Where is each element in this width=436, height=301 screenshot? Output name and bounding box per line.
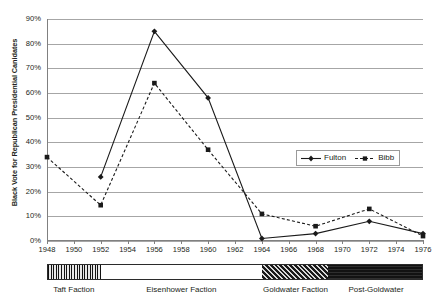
faction-segment [262, 265, 329, 279]
faction-label: Eisenhower Faction [146, 284, 216, 295]
y-axis-tick-label: 20% [11, 188, 41, 196]
chart-legend: Fulton Bibb [296, 150, 400, 166]
faction-timeline-labels: Taft FactionEisenhower FactionGoldwater … [47, 284, 423, 298]
legend-item-bibb: Bibb [355, 153, 394, 163]
faction-timeline-bar [47, 264, 423, 280]
data-point-fulton [259, 236, 265, 242]
y-axis-tick-label: 60% [11, 89, 41, 97]
faction-label: Taft Faction [53, 284, 94, 295]
faction-segment [328, 265, 422, 279]
data-point-bibb [367, 207, 372, 212]
data-point-bibb [98, 203, 103, 208]
y-axis-tick-label: 90% [11, 15, 41, 23]
y-axis-tick-label: 70% [11, 64, 41, 72]
series-line-fulton [101, 31, 423, 238]
y-axis-tick-label: 0% [11, 237, 41, 245]
data-point-bibb [45, 155, 50, 160]
faction-label: Post-Goldwater [348, 284, 403, 295]
legend-swatch-fulton-icon [301, 154, 321, 163]
data-point-fulton [313, 231, 319, 237]
legend-swatch-bibb-icon [355, 154, 375, 163]
y-axis-tick-label: 30% [11, 163, 41, 171]
faction-label: Goldwater Faction [263, 284, 328, 295]
x-axis-tick-label: 1976 [403, 245, 436, 254]
data-point-bibb [260, 212, 265, 217]
y-axis-tick-label: 80% [11, 40, 41, 48]
y-axis-tick-label: 50% [11, 114, 41, 122]
data-point-bibb [206, 147, 211, 152]
legend-label-bibb: Bibb [378, 153, 394, 163]
legend-label-fulton: Fulton [324, 153, 346, 163]
data-point-bibb [313, 224, 318, 229]
data-point-bibb [152, 81, 157, 86]
data-series-layer [47, 19, 423, 241]
y-axis-tick-label: 40% [11, 138, 41, 146]
data-point-bibb [421, 234, 426, 239]
faction-segment [48, 265, 101, 279]
faction-segment [101, 265, 261, 279]
x-axis-tick [423, 240, 424, 244]
data-point-fulton [366, 218, 372, 224]
y-axis-tick-label: 10% [11, 212, 41, 220]
legend-item-fulton: Fulton [301, 153, 346, 163]
plot-area: 0%10%20%30%40%50%60%70%80%90% 1948195019… [47, 19, 423, 241]
data-point-fulton [98, 174, 104, 180]
